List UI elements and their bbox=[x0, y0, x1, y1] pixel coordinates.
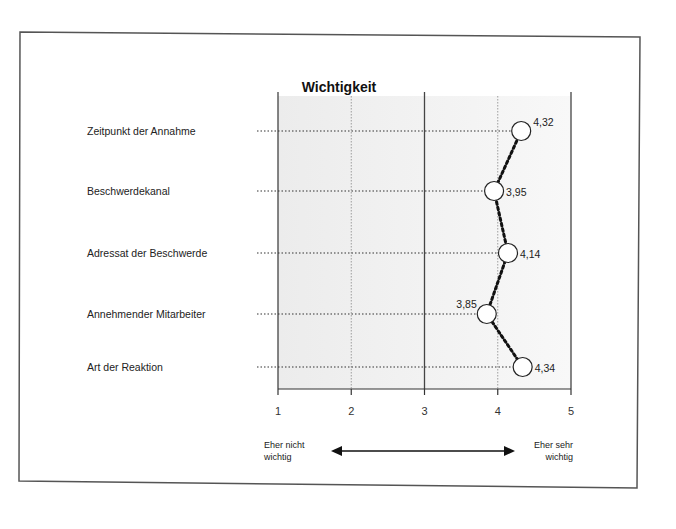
category-label: Art der Reaktion bbox=[87, 361, 163, 373]
category-label: Zeitpunkt der Annahme bbox=[87, 125, 196, 137]
data-point-marker bbox=[499, 244, 518, 263]
tick-label: 5 bbox=[568, 405, 574, 417]
tick-label: 3 bbox=[421, 405, 427, 417]
scale-left-label-line2: wichtig bbox=[263, 452, 292, 462]
scale-left-label-line1: Eher nicht bbox=[264, 440, 305, 450]
data-value-label: 4,14 bbox=[520, 248, 541, 260]
scale-right-label-line1: Eher sehr bbox=[534, 440, 573, 450]
data-point-marker bbox=[477, 305, 496, 324]
data-value-label: 4,34 bbox=[535, 362, 556, 374]
category-label: Beschwerdekanal bbox=[87, 185, 170, 197]
tick-label: 4 bbox=[495, 405, 501, 417]
data-value-label: 3,85 bbox=[456, 298, 477, 310]
data-point-marker bbox=[512, 122, 531, 141]
chart-root: Zeitpunkt der AnnahmeBeschwerdekanalAdre… bbox=[0, 0, 676, 529]
category-label: Annehmender Mitarbeiter bbox=[87, 308, 206, 320]
data-point-marker bbox=[513, 358, 532, 377]
data-value-label: 4,32 bbox=[533, 116, 554, 128]
data-value-label: 3,95 bbox=[506, 186, 527, 198]
scale-right-label-line2: wichtig bbox=[544, 452, 573, 462]
chart-title: Wichtigkeit bbox=[302, 79, 377, 95]
category-label: Adressat der Beschwerde bbox=[87, 247, 207, 259]
tick-label: 1 bbox=[275, 405, 281, 417]
data-point-marker bbox=[485, 182, 504, 201]
tick-label: 2 bbox=[348, 405, 354, 417]
